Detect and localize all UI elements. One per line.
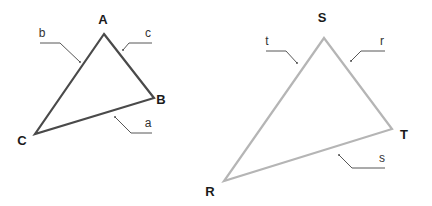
leader-line-b [40, 43, 80, 62]
side-label-c: c [145, 26, 151, 40]
side-label-t: t [265, 34, 269, 48]
leader-line-r [351, 51, 385, 61]
triangle-abc: A B C b c a [17, 12, 165, 148]
side-label-s: s [379, 151, 385, 165]
triangle-rst-outline [224, 38, 392, 181]
side-label-r: r [380, 34, 384, 48]
triangle-abc-outline [35, 34, 154, 134]
side-label-a: a [145, 116, 152, 130]
leader-dot-r [350, 60, 352, 62]
leader-dot-b [79, 61, 81, 63]
leader-dot-s [338, 154, 340, 156]
vertex-label-t: T [400, 127, 408, 142]
vertex-label-b: B [156, 92, 165, 107]
leader-dot-a [114, 116, 116, 118]
triangle-diagram: A B C b c a S T R t r s [0, 0, 432, 206]
leader-dot-t [296, 62, 298, 64]
vertex-label-r: R [205, 184, 215, 199]
vertex-label-a: A [98, 12, 108, 27]
leader-dot-c [122, 49, 124, 51]
triangle-rst: S T R t r s [205, 10, 408, 199]
vertex-label-c: C [17, 133, 27, 148]
vertex-label-s: S [318, 10, 327, 25]
side-label-b: b [39, 26, 46, 40]
leader-line-c [123, 43, 152, 50]
leader-line-t [266, 51, 297, 63]
